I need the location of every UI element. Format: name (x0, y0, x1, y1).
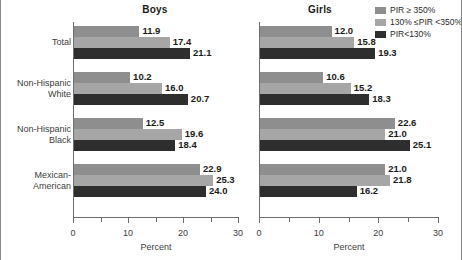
x-axis-tick-label: 10 (123, 228, 133, 238)
bar-group: 10.216.020.7 (74, 72, 239, 105)
x-axis-tick (378, 218, 379, 223)
bar-value-label: 16.0 (162, 82, 184, 93)
bar-row: 20.7 (74, 94, 239, 105)
bar-row: 25.1 (260, 140, 439, 151)
legend-label: 130% ≤PIR <350% (390, 17, 462, 27)
x-axis-tick (73, 218, 74, 223)
panel-boys: Boys Percent 010203011.917.421.110.216.0… (1, 0, 247, 260)
bar-row: 16.2 (260, 186, 439, 197)
bar (260, 26, 332, 37)
legend-swatch-icon (375, 7, 386, 14)
legend-item[interactable]: PIR ≥ 350% (375, 5, 461, 15)
x-axis-tick-label: 20 (178, 228, 188, 238)
bar (260, 72, 323, 83)
bar-row: 10.6 (260, 72, 439, 83)
bar (74, 83, 162, 94)
bar-value-label: 25.1 (410, 139, 432, 150)
bar (74, 175, 213, 186)
bar-row: 18.3 (260, 94, 439, 105)
bar (260, 48, 375, 59)
x-axis-tick (438, 218, 439, 223)
x-axis-title-girls: Percent (259, 242, 439, 252)
bar-row: 19.3 (260, 48, 439, 59)
x-axis-minor-tick (408, 218, 409, 222)
legend-swatch-icon (375, 19, 386, 26)
x-axis-minor-tick (349, 218, 350, 222)
bar-value-label: 21.1 (190, 47, 212, 58)
bar-value-label: 21.0 (385, 163, 407, 174)
bar (74, 129, 182, 140)
legend-label: PIR ≥ 350% (390, 5, 435, 15)
bar-row: 18.4 (74, 140, 239, 151)
bar-value-label: 21.0 (385, 128, 407, 139)
bar-value-label: 12.0 (332, 25, 354, 36)
bar-value-label: 12.5 (143, 117, 165, 128)
bar-group: 10.615.218.3 (260, 72, 439, 105)
legend: PIR ≥ 350%130% ≤PIR <350%PIR<130% (375, 5, 461, 41)
bar (74, 94, 188, 105)
bar (74, 140, 175, 151)
bar (260, 129, 385, 140)
bar (260, 94, 369, 105)
x-axis-tick-label: 10 (314, 228, 324, 238)
bar-group: 11.917.421.1 (74, 26, 239, 59)
x-axis-tick (319, 218, 320, 223)
bar-row: 22.6 (260, 118, 439, 129)
x-axis-tick (259, 218, 260, 223)
bar-row: 15.2 (260, 83, 439, 94)
x-axis-tick-label: 0 (256, 228, 261, 238)
bar-value-label: 18.4 (175, 139, 197, 150)
bar-value-label: 22.6 (395, 117, 417, 128)
bar-value-label: 18.3 (369, 93, 391, 104)
bar-value-label: 17.4 (170, 36, 192, 47)
bar-row: 19.6 (74, 129, 239, 140)
bar-value-label: 20.7 (188, 93, 210, 104)
legend-item[interactable]: PIR<130% (375, 29, 461, 39)
bar-value-label: 10.6 (323, 71, 345, 82)
bar-value-label: 25.3 (213, 174, 235, 185)
x-axis-minor-tick (211, 218, 212, 222)
bar (74, 118, 143, 129)
bar-value-label: 24.0 (206, 185, 228, 196)
bar-group: 12.519.618.4 (74, 118, 239, 151)
x-axis-tick-label: 30 (233, 228, 243, 238)
bar-value-label: 21.8 (390, 174, 412, 185)
x-axis-tick-label: 30 (433, 228, 443, 238)
bar-value-label: 11.9 (139, 25, 160, 36)
chart-figure: TotalNon-HispanicWhiteNon-HispanicBlackM… (0, 0, 462, 260)
x-axis-tick (238, 218, 239, 223)
bar-value-label: 15.2 (351, 82, 373, 93)
bar-value-label: 19.3 (375, 47, 397, 58)
bar-group: 22.925.324.0 (74, 164, 239, 197)
bar (260, 118, 395, 129)
bar (260, 37, 354, 48)
bar-row: 10.2 (74, 72, 239, 83)
x-axis-minor-tick (101, 218, 102, 222)
legend-label: PIR<130% (390, 29, 431, 39)
bar-value-label: 16.2 (357, 185, 379, 196)
bar-value-label: 10.2 (130, 71, 152, 82)
bar-value-label: 19.6 (182, 128, 204, 139)
x-axis-minor-tick (289, 218, 290, 222)
bar (260, 140, 410, 151)
legend-swatch-icon (375, 31, 386, 38)
x-axis-tick-label: 0 (70, 228, 75, 238)
x-axis-tick-label: 20 (373, 228, 383, 238)
bar (74, 48, 190, 59)
bar (260, 83, 351, 94)
bar-row: 21.8 (260, 175, 439, 186)
bar (260, 186, 357, 197)
bar-value-label: 15.8 (354, 36, 376, 47)
bar-row: 21.0 (260, 164, 439, 175)
x-axis-tick (128, 218, 129, 223)
legend-item[interactable]: 130% ≤PIR <350% (375, 17, 461, 27)
plot-area-girls: Percent 010203012.015.819.310.615.218.32… (259, 22, 439, 218)
bar (74, 186, 206, 197)
bar-value-label: 22.9 (200, 163, 222, 174)
bar-group: 21.021.816.2 (260, 164, 439, 197)
bar-row: 24.0 (74, 186, 239, 197)
bar (260, 164, 385, 175)
plot-area-boys: Percent 010203011.917.421.110.216.020.71… (73, 22, 239, 218)
bar-row: 21.1 (74, 48, 239, 59)
x-axis-title-boys: Percent (73, 242, 239, 252)
